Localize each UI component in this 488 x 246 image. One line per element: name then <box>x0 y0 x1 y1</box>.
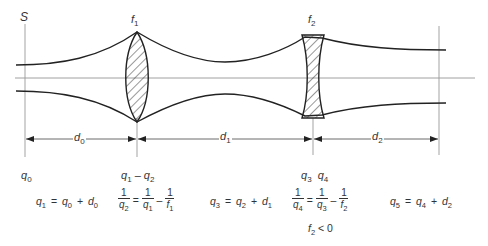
beam-envelope-upper <box>16 32 446 65</box>
equation-q2-thin-lens: 1q2 = 1q1 – 1f1 <box>117 188 175 213</box>
lens1-label: f1 <box>131 14 139 28</box>
q0-label: q0 <box>21 170 32 184</box>
equation-q3: q3 = q2 + d1 <box>210 196 272 210</box>
beam-envelope-lower <box>16 91 446 122</box>
converging-lens-f1 <box>118 30 158 125</box>
distance-d0-label: d0 <box>73 132 86 146</box>
source-label: S <box>20 11 28 23</box>
equation-q5: q5 = q4 + d2 <box>390 196 452 210</box>
distance-d1-label: d1 <box>219 131 232 145</box>
equation-q4-thin-lens: 1q4 = 1q3 – 1f2 <box>291 188 349 213</box>
equation-q1: q1 = q0 + d0 <box>36 196 98 210</box>
distance-d2-label: d2 <box>371 131 384 145</box>
q1-q2-label: q1 – q2 <box>121 170 154 184</box>
q3-q4-label: q3 q4 <box>301 170 328 184</box>
lens2-label: f2 <box>308 14 316 28</box>
condition-f2-negative: f2 < 0 <box>308 223 333 237</box>
diverging-lens-f2 <box>300 33 328 121</box>
